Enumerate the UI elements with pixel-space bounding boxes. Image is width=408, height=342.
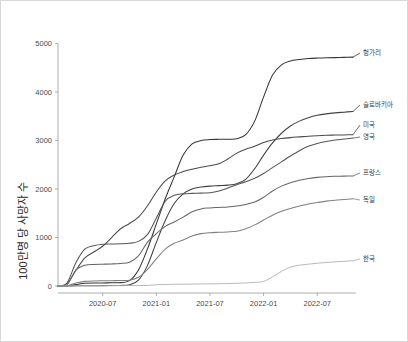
- series-label-7: 한국: [363, 255, 375, 263]
- series-line-layer: [58, 57, 353, 286]
- series-label-5: 프랑스: [363, 169, 381, 176]
- series-leader-line: [353, 137, 360, 138]
- series-leader-line: [353, 53, 360, 57]
- y-tick-label: 2000: [35, 185, 52, 194]
- chart-figure-frame: 010002000300040005000 2020-072021-012021…: [0, 0, 408, 342]
- y-tick-label: 0: [48, 282, 52, 291]
- series-label-3: 미국: [363, 120, 375, 129]
- x-tick-label: 2020-07: [89, 299, 117, 308]
- series-line: [58, 57, 353, 286]
- series-line: [58, 199, 353, 286]
- line-chart-svg: 010002000300040005000 2020-072021-012021…: [1, 1, 408, 342]
- series-label-4: 영국: [363, 132, 375, 141]
- series-leader-layer: [353, 53, 360, 261]
- y-tick-label: 3000: [35, 136, 52, 145]
- series-leader-line: [353, 199, 360, 200]
- y-tick-label: 5000: [35, 39, 52, 48]
- xtick-label-layer: 2020-072021-012021-072022-012022-07: [89, 293, 331, 308]
- y-tick-label: 1000: [35, 233, 52, 242]
- chart-plot-area: 010002000300040005000 2020-072021-012021…: [1, 1, 408, 342]
- y-tick-label: 4000: [35, 88, 52, 97]
- x-tick-label: 2021-01: [143, 299, 171, 308]
- series-leader-line: [353, 173, 360, 176]
- series-label-2: 슬로바키아: [363, 100, 393, 109]
- series-leader-line: [353, 259, 360, 261]
- series-leader-line: [353, 125, 360, 135]
- y-axis-title: 100만명 당 사망자 수: [17, 182, 29, 280]
- x-tick-label: 2021-07: [196, 299, 224, 308]
- ytick-label-layer: 010002000300040005000: [35, 39, 58, 290]
- x-tick-label: 2022-01: [250, 299, 278, 308]
- series-label-layer: 헝가리슬로바키아미국영국프랑스독일한국: [363, 48, 393, 263]
- axis-layer: [58, 44, 356, 293]
- series-label-6: 독일: [363, 195, 375, 204]
- series-line: [58, 111, 353, 286]
- series-label-1: 헝가리: [363, 48, 381, 57]
- series-line: [58, 135, 353, 286]
- series-leader-line: [353, 105, 360, 111]
- x-tick-label: 2022-07: [303, 299, 331, 308]
